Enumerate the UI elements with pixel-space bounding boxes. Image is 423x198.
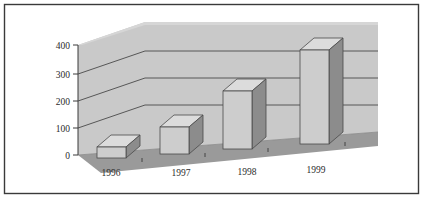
y-tick-label-400: 400 [56, 41, 71, 51]
bar-1998-side [252, 79, 266, 149]
bar-1999-side [329, 38, 343, 144]
bar-1996-front [97, 147, 126, 158]
bar-1997-front [160, 127, 189, 154]
bar-1998-front [223, 91, 252, 149]
chart-frame: 400 300 200 100 0 [0, 0, 423, 198]
y-tick-label-0: 0 [65, 151, 70, 161]
bar-1999[interactable] [300, 38, 343, 144]
x-tick-label-1996: 1996 [102, 168, 121, 178]
y-tick-label-100: 100 [56, 124, 71, 134]
bar-chart-3d: 400 300 200 100 0 [0, 0, 423, 198]
y-tick-label-200: 200 [56, 97, 71, 107]
y-tick-label-300: 300 [56, 70, 71, 80]
x-tick-label-1998: 1998 [238, 167, 257, 177]
bar-1999-front [300, 50, 329, 144]
x-tick-label-1997: 1997 [172, 168, 191, 178]
bar-1998[interactable] [223, 79, 266, 149]
x-tick-label-1999: 1999 [307, 165, 326, 175]
